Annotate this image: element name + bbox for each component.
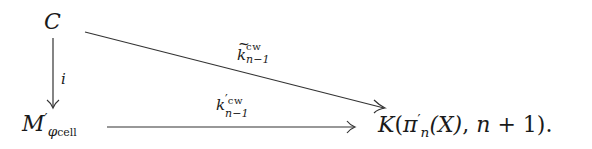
paren-open: (: [394, 112, 403, 137]
node-k-label: K: [378, 112, 394, 137]
label-i: i: [61, 70, 66, 88]
plus-sign: +: [497, 112, 515, 137]
node-m-label: M: [22, 111, 45, 136]
node-c-label: C: [44, 9, 61, 34]
label-sub-n-minus-1: n−1: [246, 54, 269, 65]
node-k-arg-x: (X): [429, 112, 462, 137]
node-m-sub-cell: cell: [57, 126, 77, 139]
node-k-eilenberg-maclane: K(π′n(X), n + 1).: [378, 114, 552, 136]
node-m-sub-phi: φ: [48, 123, 58, 139]
node-k-pi: π: [403, 112, 417, 137]
one: 1: [523, 112, 537, 137]
node-m-phi-cell: M′φcell: [22, 113, 77, 135]
label-k-tilde: k: [237, 48, 246, 63]
label-sub-n-minus-1: n−1: [225, 108, 248, 119]
label-sup-cw: cw: [228, 95, 243, 106]
comma: ,: [462, 112, 469, 137]
arrow-i: [47, 38, 59, 108]
arrow-i-label: i: [61, 72, 66, 87]
period: .: [545, 112, 552, 137]
arrow-k-prime: [107, 121, 355, 133]
node-k-n: n: [476, 112, 490, 137]
arrow-k-prime-label: k′cwn−1: [216, 98, 248, 119]
arrow-k-tilde-label: kcwn−1: [237, 48, 269, 65]
node-c: C: [44, 11, 61, 33]
label-k: k: [216, 96, 225, 114]
